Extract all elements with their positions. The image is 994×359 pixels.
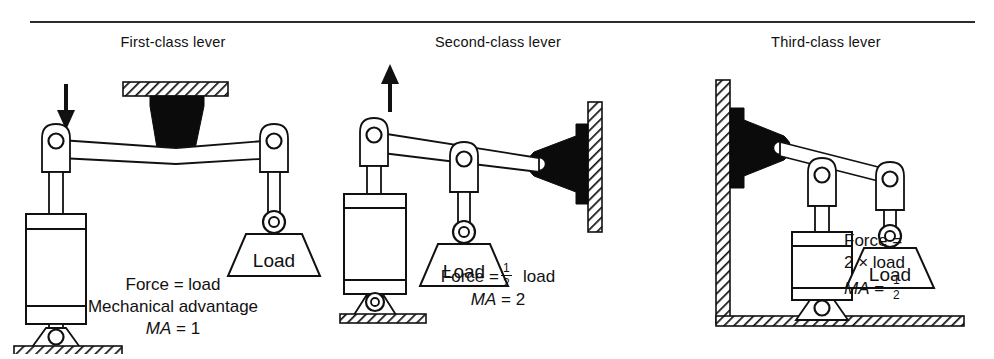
wall-hatched [716,80,730,324]
caption-line-force: Force =12 load [338,262,658,289]
clevis-middle [808,158,836,206]
ma-symbol: MA [146,319,172,338]
force-suffix: load [523,267,555,286]
up-arrow-icon [381,64,399,112]
panel-title-first-class: First-class lever [8,34,338,50]
clevis-left [42,124,70,172]
caption-line-two-times-load: 2 × load [844,252,994,274]
caption-line-ma-value: MA = 12 [844,274,994,301]
third-class-lever-drawing: Load [658,54,994,354]
wall-hatched [588,102,602,232]
load-eyelet [263,211,285,233]
down-arrow-icon [57,84,75,130]
ma-value: = 1 [176,319,200,338]
caption-line-force: Force = [844,230,994,252]
caption-second-class: Force =12 load MA = 2 [338,262,658,311]
lever-classes-figure: First-class lever [0,0,994,359]
load-eyelet [453,221,475,243]
caption-third-class: Force = 2 × load MA = 12 [844,230,994,301]
panel-third-class-lever: Third-class lever [658,30,994,355]
force-prefix: Force = [441,267,499,286]
fraction-denominator: 2 [501,276,512,289]
fraction-numerator: 1 [501,262,512,276]
caption-line-ma-value: MA = 1 [8,318,338,340]
one-half-fraction: 12 [501,262,512,289]
fraction-denominator: 2 [891,288,902,301]
caption-line-ma-value: MA = 2 [338,289,658,311]
ma-value: = 2 [501,290,525,309]
ma-symbol: MA [471,290,497,309]
clevis-left [360,118,388,166]
hydraulic-cylinder [792,232,852,300]
ground-hatched [14,346,122,354]
clevis-middle [450,142,478,192]
panel-first-class-lever: First-class lever [8,30,338,355]
cylinder-rod-upper [367,166,381,194]
top-divider-rule [30,21,975,23]
ceiling-hatched [123,82,228,96]
caption-line-force: Force = load [8,274,338,296]
clevis-right [260,124,288,172]
caption-first-class: Force = load Mechanical advantage MA = 1 [8,274,338,339]
load-label-first: Load [253,250,295,271]
cylinder-rod-upper [49,172,63,214]
one-half-fraction: 12 [891,274,902,301]
ma-equals: = [874,279,884,298]
panel-title-third-class: Third-class lever [658,34,994,50]
base-mount [796,300,848,320]
clevis-right [876,162,904,210]
load-hanger-rod [458,192,470,224]
cylinder-rod-upper [815,206,829,232]
fraction-numerator: 1 [891,274,902,288]
caption-line-mechanical-advantage: Mechanical advantage [8,296,338,318]
panel-second-class-lever: Second-class lever [338,30,658,355]
ground-hatched [340,314,426,323]
ma-symbol: MA [844,279,870,298]
load-hanger-rod [268,172,280,214]
panel-title-second-class: Second-class lever [338,34,658,50]
